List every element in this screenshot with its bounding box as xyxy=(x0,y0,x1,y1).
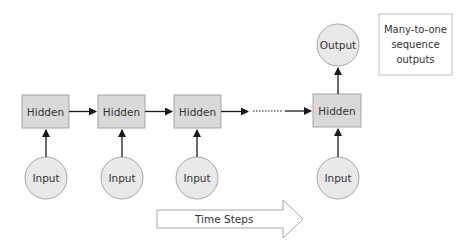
time-steps-arrow: Time Steps xyxy=(157,200,303,238)
diagram-caption-box: Many-to-one sequence outputs xyxy=(379,14,452,75)
svg-text:Hidden: Hidden xyxy=(318,105,355,117)
svg-text:Hidden: Hidden xyxy=(103,106,140,118)
caption-line-3: outputs xyxy=(396,54,434,65)
svg-text:Output: Output xyxy=(320,39,356,51)
input-node-1: Input xyxy=(25,157,67,199)
svg-text:Input: Input xyxy=(324,172,351,184)
svg-text:Hidden: Hidden xyxy=(27,106,64,118)
caption-line-1: Many-to-one xyxy=(384,24,447,35)
input-node-2: Input xyxy=(101,157,143,199)
time-steps-label: Time Steps xyxy=(194,213,253,225)
svg-text:Input: Input xyxy=(183,172,210,184)
svg-text:Input: Input xyxy=(32,172,59,184)
hidden-node-2: Hidden xyxy=(98,95,145,128)
output-node: Output xyxy=(317,24,359,66)
caption-line-2: sequence xyxy=(391,39,439,50)
svg-text:Hidden: Hidden xyxy=(179,106,216,118)
rnn-many-to-one-diagram: Many-to-one sequence outputs Hidden Hidd… xyxy=(0,0,472,249)
input-node-3: Input xyxy=(176,157,218,199)
input-node-4: Input xyxy=(317,157,359,199)
hidden-node-4: Hidden xyxy=(313,94,361,127)
svg-text:Input: Input xyxy=(108,172,135,184)
hidden-node-1: Hidden xyxy=(22,95,69,128)
hidden-node-3: Hidden xyxy=(174,95,221,128)
